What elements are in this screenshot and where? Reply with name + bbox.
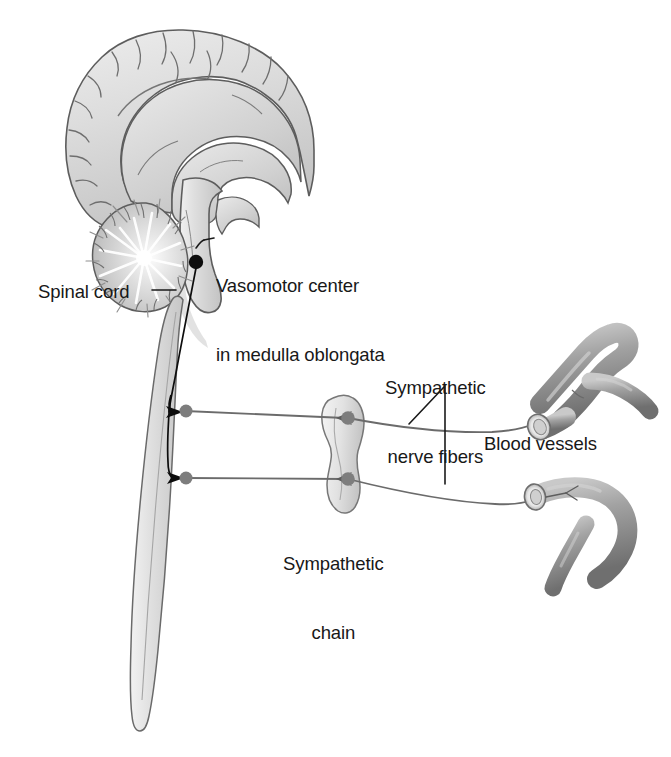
vasomotor-center-marker xyxy=(189,255,203,269)
label-blood-vessels: Blood vessels xyxy=(484,432,597,455)
spinal-cord xyxy=(130,296,183,731)
label-vasomotor-center: Vasomotor center in medulla oblongata xyxy=(216,228,385,412)
label-spinal-cord: Spinal cord xyxy=(38,280,129,303)
label-sympathetic-chain: Sympathetic chain xyxy=(283,506,384,690)
label-vasomotor-line2: in medulla oblongata xyxy=(216,343,385,366)
label-vasomotor-line1: Vasomotor center xyxy=(216,274,385,297)
blood-vessel-lower xyxy=(523,483,628,588)
label-sympathetic-chain-line1: Sympathetic xyxy=(283,552,384,575)
fiber-lower-preganglionic xyxy=(185,478,345,479)
label-sympathetic-chain-line2: chain xyxy=(283,621,384,644)
anatomy-figure: Vasomotor center in medulla oblongata Sp… xyxy=(0,0,671,757)
label-sympathetic-nerve-fibers: Sympathetic nerve fibers xyxy=(385,330,486,514)
sympathetic-chain-ganglion xyxy=(322,395,364,513)
fiber-upper-preganglionic xyxy=(185,411,345,418)
blood-vessel-upper xyxy=(524,333,650,444)
label-nerve-fibers-line1: Sympathetic xyxy=(385,376,486,399)
label-nerve-fibers-line2: nerve fibers xyxy=(385,445,486,468)
